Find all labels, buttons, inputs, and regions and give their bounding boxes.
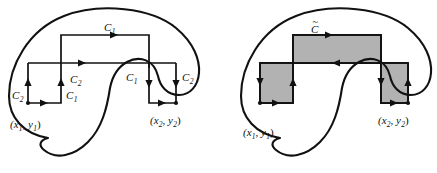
arrow-head-c2-middle [78,59,86,66]
curve-label-c2-left: C2 [12,89,24,104]
right-panel: C ~ (x1, y1) (x2, y2) [241,8,431,155]
endpoint-dot-x1y1 [26,101,30,105]
vector-diagram-canvas: C1 C2 C2 C1 C1 C2 (x1, y1) (x2, y2) [0,0,437,173]
arrow-head-c2-right-down [172,80,179,88]
arrow-head-c2-left-up [24,78,31,86]
arrow-head-c1-right-down [145,80,152,88]
curve-label-c1-left: C1 [66,89,78,104]
left-panel: C1 C2 C2 C1 C1 C2 (x1, y1) (x2, y2) [9,8,199,155]
tilde-accent-icon: ~ [313,16,319,27]
arrow-head-c1-left-up [57,78,64,86]
point-label-x1y1: (x1, y1) [243,126,274,141]
shaded-rect-right [381,63,408,103]
path-segment-left-square [28,63,61,103]
curve-label-c1-top: C1 [104,21,116,36]
shaded-rect-left [260,63,293,103]
endpoint-dot-x2y2 [174,101,178,105]
path-segment-right-square [149,63,176,103]
curve-label-c1-right: C1 [126,71,138,86]
endpoint-dot-x1y1 [258,101,262,105]
endpoint-dot-x2y2 [406,101,410,105]
point-label-x2y2: (x2, y2) [378,114,409,129]
curve-label-c2-middle: C2 [70,73,82,88]
point-label-x2y2: (x2, y2) [150,114,181,129]
arrow-head-bottom-left-right [40,99,48,106]
arrow-head-bottom-right-right [158,99,166,106]
curve-label-c2-right: C2 [182,71,194,86]
